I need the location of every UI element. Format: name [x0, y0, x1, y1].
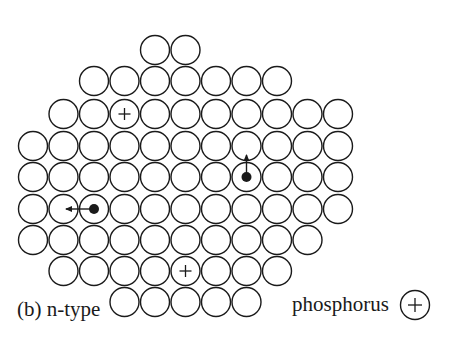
silicon-atom	[232, 257, 261, 286]
silicon-atom	[202, 163, 231, 192]
silicon-atom	[110, 226, 139, 255]
silicon-atom	[141, 226, 170, 255]
silicon-atom	[202, 132, 231, 161]
silicon-atom	[141, 163, 170, 192]
silicon-atom	[49, 163, 78, 192]
silicon-atom	[263, 226, 292, 255]
silicon-atom	[80, 257, 109, 286]
silicon-atom	[171, 195, 200, 224]
silicon-atom	[263, 67, 292, 96]
silicon-atom	[171, 226, 200, 255]
silicon-atom	[19, 195, 48, 224]
silicon-atom	[110, 163, 139, 192]
silicon-atom	[232, 226, 261, 255]
silicon-atom	[19, 226, 48, 255]
silicon-atom	[324, 132, 353, 161]
silicon-atom	[293, 226, 322, 255]
silicon-atom	[202, 226, 231, 255]
silicon-atom	[171, 132, 200, 161]
silicon-atom	[232, 67, 261, 96]
silicon-atom	[19, 163, 48, 192]
silicon-atom	[171, 100, 200, 129]
silicon-atom	[232, 288, 261, 317]
silicon-atom	[19, 132, 48, 161]
silicon-atom	[324, 163, 353, 192]
silicon-atom	[232, 195, 261, 224]
silicon-atom	[141, 288, 170, 317]
silicon-atom	[49, 257, 78, 286]
figure-caption: (b) n-type	[17, 299, 100, 320]
silicon-atom	[202, 195, 231, 224]
silicon-atom	[110, 132, 139, 161]
silicon-atom	[263, 163, 292, 192]
silicon-atom	[80, 226, 109, 255]
silicon-atom	[141, 257, 170, 286]
silicon-atom	[171, 288, 200, 317]
silicon-atom	[171, 163, 200, 192]
silicon-atom	[202, 257, 231, 286]
silicon-atom	[263, 195, 292, 224]
silicon-atom	[110, 288, 139, 317]
silicon-atom	[263, 100, 292, 129]
silicon-atom	[171, 67, 200, 96]
silicon-atom	[80, 67, 109, 96]
silicon-atom	[110, 257, 139, 286]
silicon-atom	[293, 132, 322, 161]
silicon-atom	[141, 195, 170, 224]
silicon-atom	[80, 132, 109, 161]
silicon-atom	[110, 195, 139, 224]
silicon-atom	[324, 100, 353, 129]
silicon-atom	[202, 288, 231, 317]
silicon-atom	[141, 132, 170, 161]
silicon-atom	[293, 195, 322, 224]
silicon-atom	[263, 132, 292, 161]
silicon-atom	[80, 100, 109, 129]
legend-label: phosphorus	[292, 294, 389, 315]
legend-phosphorus-icon	[401, 291, 430, 320]
silicon-atom	[293, 163, 322, 192]
silicon-atom	[263, 257, 292, 286]
silicon-atom	[110, 67, 139, 96]
silicon-atom	[49, 132, 78, 161]
silicon-atom	[80, 163, 109, 192]
silicon-atom	[171, 36, 200, 65]
silicon-atom	[293, 100, 322, 129]
silicon-atom	[202, 100, 231, 129]
silicon-atom	[324, 195, 353, 224]
silicon-atom	[232, 100, 261, 129]
silicon-atom	[202, 67, 231, 96]
silicon-atom	[141, 100, 170, 129]
silicon-atom	[49, 226, 78, 255]
silicon-atom	[49, 100, 78, 129]
silicon-atom	[141, 36, 170, 65]
silicon-atom	[141, 67, 170, 96]
